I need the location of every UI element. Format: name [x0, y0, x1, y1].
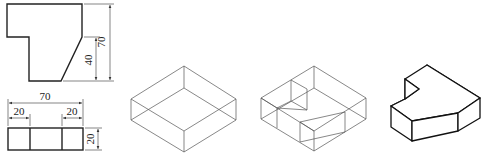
dimension-text-20-depth: 20: [84, 133, 96, 145]
front-view: 70 40: [7, 4, 114, 81]
top-view: 70 20 20 20: [8, 90, 102, 150]
top-view-outline: [8, 128, 83, 150]
dimension-text-70: 70: [40, 90, 52, 102]
front-view-outline: [7, 4, 82, 81]
isometric-bounding-box: [131, 66, 236, 152]
dimension-text-70: 70: [95, 36, 107, 48]
isometric-cut-box: [261, 66, 366, 151]
dimension-text-20-right: 20: [67, 105, 79, 117]
technical-drawing: 70 40 70 20 20 20: [0, 0, 483, 163]
isometric-finished-solid: [391, 65, 480, 141]
dimension-text-40: 40: [82, 54, 94, 66]
dimension-text-20-left: 20: [14, 105, 26, 117]
